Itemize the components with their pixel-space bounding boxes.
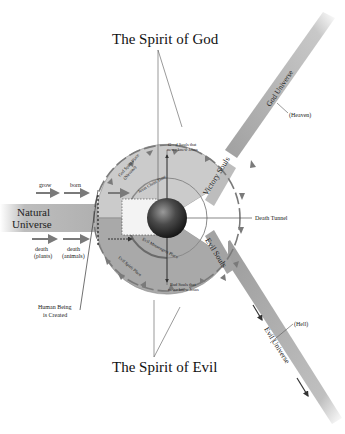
good-souls-label-2: never knew Jesus — [167, 147, 198, 152]
central-sphere — [147, 198, 187, 238]
heaven-label: (Heaven) — [289, 112, 311, 119]
death-animals-label-1: death — [67, 246, 80, 252]
born-label: born — [70, 182, 81, 188]
death-animals-label-2: (animals) — [62, 253, 85, 260]
human-being-label-1: Human Being — [38, 304, 72, 310]
grow-label: grow — [39, 182, 52, 188]
human-being-label-2: is Created — [43, 312, 67, 318]
bad-souls-label-2: never knew Jesus — [168, 287, 199, 292]
natural-universe-label-1: Natural — [17, 206, 50, 218]
death-tunnel-label: Death Tunnel — [255, 215, 288, 221]
evil-universe-band — [218, 240, 342, 424]
death-plants-label-1: death — [35, 246, 48, 252]
spirit-universe-diagram: The Spirit of God The Spirit of Evil Nat… — [0, 0, 345, 434]
hell-label: (Hell) — [294, 321, 308, 328]
natural-universe-label-2: Universe — [12, 218, 52, 230]
death-plants-label-2: (plants) — [34, 253, 52, 260]
title-spirit-of-god: The Spirit of God — [112, 31, 219, 47]
title-spirit-of-evil: The Spirit of Evil — [112, 359, 217, 375]
